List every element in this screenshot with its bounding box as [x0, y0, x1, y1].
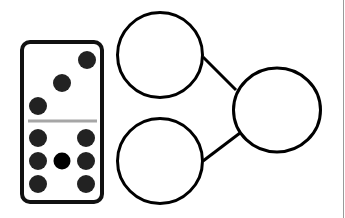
connector-bottom [203, 133, 240, 161]
page-edge-line [343, 0, 344, 218]
connector-top [203, 57, 236, 90]
pip-icon [53, 74, 71, 92]
pip-icon [29, 152, 47, 170]
part-circle-top[interactable] [118, 13, 203, 98]
pip-icon [29, 175, 47, 193]
whole-circle[interactable] [234, 68, 321, 152]
pip-icon [78, 51, 96, 69]
pip-icon [29, 129, 47, 147]
number-bond-diagram: Domino number bond [0, 0, 345, 218]
pip-icon [77, 129, 95, 147]
pip-icon [77, 152, 95, 170]
domino [22, 42, 102, 202]
pip-icon [29, 97, 47, 115]
center-pip-icon [54, 153, 71, 170]
pip-icon [77, 175, 95, 193]
part-circle-bottom[interactable] [118, 119, 203, 204]
